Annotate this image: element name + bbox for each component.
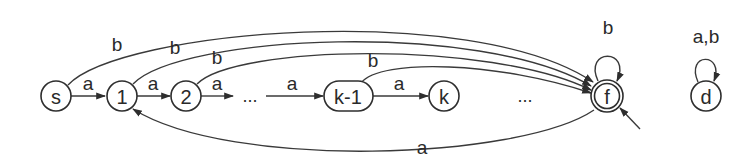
- state-label: f: [604, 86, 610, 108]
- edge-label: b: [112, 34, 123, 55]
- state-d: d: [691, 81, 721, 111]
- edge-2-to-dots: a: [201, 73, 233, 96]
- automaton-diagram: a a a ... a a ... b b b b b a: [0, 0, 756, 164]
- edge-d-loop: a,b: [693, 26, 719, 82]
- state-label: k-1: [334, 86, 362, 108]
- state-label: s: [51, 86, 61, 108]
- edge-s-to-1: a: [71, 73, 105, 96]
- state-1: 1: [107, 81, 137, 111]
- state-label: d: [700, 86, 711, 108]
- edge-label: a: [417, 137, 428, 158]
- edge-label: a: [148, 73, 159, 94]
- ellipsis-middle: ...: [242, 86, 257, 106]
- edge-label: b: [212, 47, 223, 68]
- state-f-accepting: f: [591, 80, 623, 112]
- state-k: k: [429, 81, 459, 111]
- edge-label: a: [287, 73, 298, 94]
- edge-label: b: [603, 17, 614, 38]
- edge-1-to-f: b: [133, 37, 591, 86]
- edge-k1-to-k: a: [373, 73, 428, 96]
- state-k-1: k-1: [324, 81, 373, 111]
- edge-f-loop: b: [595, 17, 620, 81]
- edge-label: a,b: [693, 26, 719, 47]
- edge-label: b: [170, 37, 181, 58]
- edge-dots-to-k1: a: [266, 73, 323, 96]
- edge-label: a: [212, 73, 223, 94]
- state-label: k: [439, 86, 450, 108]
- state-2: 2: [171, 81, 201, 111]
- edge-label: b: [368, 50, 379, 71]
- ellipsis-right: ...: [517, 86, 532, 106]
- state-label: 1: [116, 86, 127, 108]
- edge-label: a: [394, 73, 405, 94]
- state-s: s: [41, 81, 71, 111]
- state-label: 2: [180, 86, 191, 108]
- start-arrow: [620, 108, 640, 129]
- edge-label: a: [83, 73, 94, 94]
- edge-f-to-1: a: [133, 109, 594, 158]
